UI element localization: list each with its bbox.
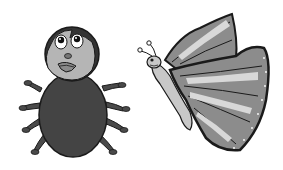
spider (19, 27, 130, 157)
illustration (0, 0, 283, 170)
scene (0, 0, 283, 170)
spider-body (39, 73, 107, 157)
spider-leg (106, 102, 124, 111)
spider-nose (65, 54, 72, 59)
butterfly-antennae (138, 41, 156, 56)
spider-head (45, 27, 99, 81)
butterfly (138, 14, 269, 150)
